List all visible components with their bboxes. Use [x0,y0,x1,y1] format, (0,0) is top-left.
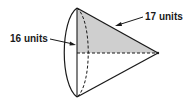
cone-tip [157,52,159,54]
arrow-16-head [70,42,77,46]
arrow-17-line [118,17,143,25]
slant-edge-bottom [77,53,158,97]
arrow-17-head [115,22,122,26]
base-ellipse-front [64,8,77,97]
arrow-16-line [50,39,73,44]
height-label: 16 units [10,34,48,44]
slant-height-label: 17 units [145,12,183,22]
